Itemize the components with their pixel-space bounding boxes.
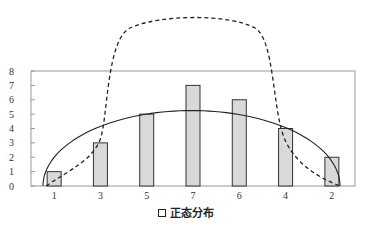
legend: 正态分布 — [0, 204, 371, 220]
bar — [232, 100, 246, 186]
y-tick-label: 2 — [9, 152, 14, 163]
bars — [47, 85, 339, 186]
x-tick-label: 1 — [52, 190, 57, 201]
legend-label: 正态分布 — [170, 207, 214, 220]
y-tick-label: 3 — [9, 137, 14, 148]
x-tick-label: 3 — [98, 190, 103, 201]
bar-chart: 012345678 1357642 — [0, 0, 371, 229]
y-tick-label: 0 — [9, 181, 14, 192]
y-tick-label: 8 — [9, 66, 14, 77]
bar — [186, 85, 200, 186]
x-tick-label: 5 — [144, 190, 149, 201]
y-tick-label: 1 — [9, 166, 14, 177]
x-tick-label: 7 — [191, 190, 196, 201]
bar — [93, 143, 107, 186]
x-tick-label: 6 — [237, 190, 242, 201]
y-tick-label: 5 — [9, 109, 14, 120]
x-axis: 1357642 — [52, 190, 335, 201]
y-tick-label: 7 — [9, 80, 14, 91]
bar — [140, 114, 154, 186]
y-tick-label: 6 — [9, 94, 14, 105]
legend-swatch-icon — [158, 209, 166, 217]
x-tick-label: 4 — [283, 190, 288, 201]
bar — [279, 129, 293, 187]
x-tick-label: 2 — [329, 190, 334, 201]
y-tick-label: 4 — [9, 123, 14, 134]
